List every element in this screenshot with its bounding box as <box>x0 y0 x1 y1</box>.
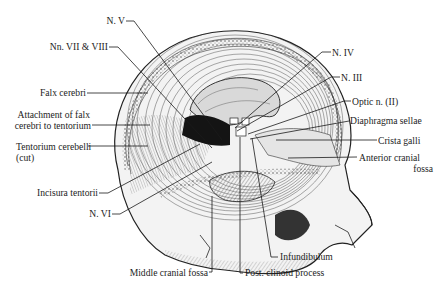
label-middle-cranial-fossa: Middle cranial fossa <box>110 267 208 278</box>
label-falx-cerebri: Falx cerebri <box>10 87 86 98</box>
label-n-v: N. V <box>60 15 125 26</box>
label-infundibulum: Infundibulum <box>280 251 333 262</box>
label-n-iv: N. IV <box>332 47 354 58</box>
label-tentorium-line1: Tentorium cerebelli <box>16 141 91 152</box>
label-tentorium-line2: (cut) <box>16 152 34 163</box>
label-diaphragma-sellae: Diaphragma sellae <box>350 115 422 126</box>
label-anterior-fossa-line1: Anterior cranial <box>359 152 420 163</box>
label-n-vi: N. VI <box>60 208 111 219</box>
label-n-iii: N. III <box>341 72 362 83</box>
label-attachment-line2: cerebri to tentorium <box>0 120 91 131</box>
label-crista-galli: Crista galli <box>378 135 420 146</box>
label-attachment-line1: Attachment of falx <box>0 109 90 120</box>
label-incisura-tentorii: Incisura tentorii <box>10 187 98 198</box>
label-optic-n: Optic n. (II) <box>352 96 398 107</box>
label-nn-vii-viii: Nn. VII & VIII <box>20 41 108 52</box>
label-anterior-fossa-line2: fossa <box>359 163 433 174</box>
label-post-clinoid-process: Post. clinoid process <box>245 267 324 278</box>
skull-drawing <box>115 30 372 274</box>
